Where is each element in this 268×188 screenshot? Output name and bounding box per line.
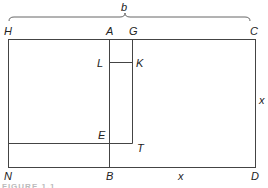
figure-caption: FIGURE 1.1 bbox=[2, 182, 56, 188]
label-G: G bbox=[129, 26, 138, 37]
label-N: N bbox=[4, 171, 12, 182]
label-K: K bbox=[136, 58, 143, 69]
label-A: A bbox=[106, 26, 113, 37]
label-T: T bbox=[137, 143, 144, 154]
label-H: H bbox=[4, 26, 12, 37]
label-x-right: x bbox=[259, 95, 265, 106]
label-B: B bbox=[106, 171, 113, 182]
label-b: b bbox=[121, 2, 127, 13]
label-x-bottom: x bbox=[178, 171, 184, 182]
label-L: L bbox=[97, 58, 103, 69]
label-C: C bbox=[250, 26, 258, 37]
label-E: E bbox=[98, 130, 105, 141]
label-D: D bbox=[251, 171, 259, 182]
brace-b bbox=[9, 13, 250, 21]
